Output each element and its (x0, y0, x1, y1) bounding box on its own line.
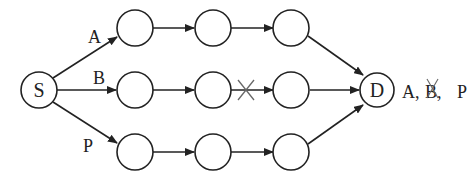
result-label-a: A, (402, 82, 420, 102)
result-label-b: B, (425, 82, 442, 102)
edge-label-a: A (88, 27, 101, 47)
node-a2 (195, 10, 231, 46)
node-p1 (117, 134, 153, 170)
node-b3 (273, 72, 309, 108)
destination-label: D (370, 79, 384, 101)
node-p2 (195, 134, 231, 170)
path-diagram: S D A B P A, B, P (0, 0, 475, 188)
source-label: S (33, 79, 44, 101)
edge-label-b: B (93, 68, 105, 88)
node-p3 (273, 134, 309, 170)
node-b1 (117, 72, 153, 108)
result-label-p: P (457, 82, 467, 102)
edge-s-a (53, 37, 117, 78)
node-b2 (195, 72, 231, 108)
edge-label-p: P (83, 136, 93, 156)
node-a1 (117, 10, 153, 46)
node-a3 (273, 10, 309, 46)
